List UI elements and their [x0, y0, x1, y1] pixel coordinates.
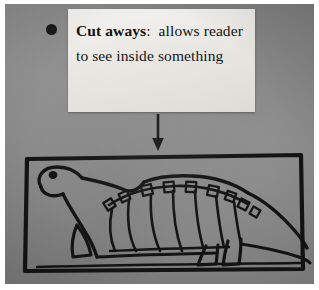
dinosaur-cutaway-illustration	[17, 147, 312, 279]
eye	[49, 171, 58, 179]
neck-top	[82, 178, 144, 191]
vocabulary-term: Cut aways	[76, 22, 146, 39]
definition-note-card: Cut aways: allows reader to see inside s…	[68, 9, 255, 112]
term-separator: :	[146, 22, 150, 39]
tail-top	[248, 193, 307, 248]
tail-underside	[241, 244, 310, 263]
construction-paper-board: Cut aways: allows reader to see inside s…	[5, 4, 314, 284]
hind-leg-near	[223, 239, 241, 265]
drawing-caption: Hand-drawn side view of a long-necked di…	[0, 0, 1, 1]
definition-text: Cut aways: allows reader to see inside s…	[76, 18, 251, 68]
ribs	[110, 191, 241, 251]
bullet-dot-icon	[46, 24, 57, 35]
head	[39, 167, 82, 187]
inner-belly-line	[110, 247, 229, 251]
ground-line	[37, 263, 300, 267]
belly-line	[97, 253, 217, 257]
neck-underside	[63, 194, 97, 257]
poster-photograph: Cut aways: allows reader to see inside s…	[0, 0, 319, 290]
front-leg	[72, 225, 91, 257]
jaw	[41, 187, 63, 196]
